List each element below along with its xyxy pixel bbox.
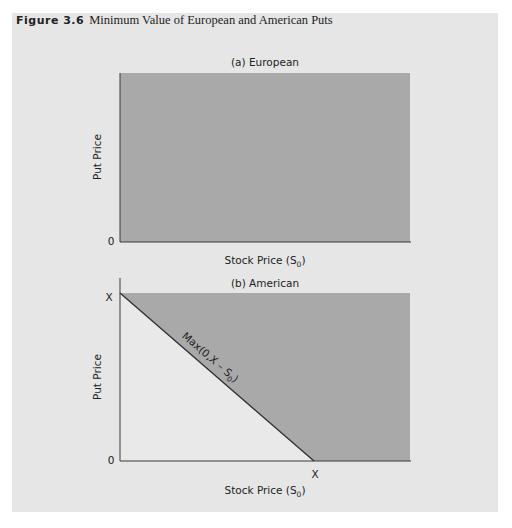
chart-a-y-tick-0: 0 bbox=[108, 235, 115, 247]
chart-american: (b) American X 0 X Put Price Max(0,X – S… bbox=[91, 277, 411, 499]
chart-a-shaded-region bbox=[120, 73, 410, 242]
chart-b-y-tick-0: 0 bbox=[108, 454, 115, 466]
chart-b-y-tick-x: X bbox=[105, 291, 112, 303]
chart-b-x-label: Stock Price (S0) bbox=[224, 484, 305, 499]
chart-b-x-tick-x: X bbox=[311, 468, 318, 480]
chart-a-y-label: Put Price bbox=[91, 134, 103, 180]
chart-b-title: (b) American bbox=[231, 277, 299, 289]
chart-a-title: (a) European bbox=[231, 56, 299, 68]
figure-charts: (a) European 0 Put Price Stock Price (S0… bbox=[0, 0, 512, 528]
chart-b-y-label: Put Price bbox=[91, 354, 103, 400]
chart-european: (a) European 0 Put Price Stock Price (S0… bbox=[91, 56, 411, 269]
chart-a-x-label: Stock Price (S0) bbox=[224, 254, 305, 269]
